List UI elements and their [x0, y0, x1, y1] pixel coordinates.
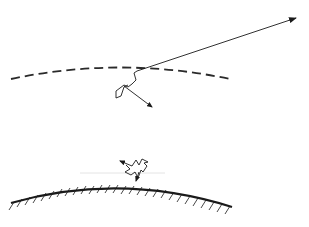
diagram-canvas	[0, 0, 309, 227]
ground-surface	[9, 185, 232, 214]
outgoing-track-arrow	[137, 18, 296, 71]
diagram-svg	[0, 0, 309, 227]
incoming-track-arrow	[124, 86, 152, 107]
atmosphere-boundary	[11, 68, 230, 80]
surface-scatter-symbol	[120, 159, 148, 181]
